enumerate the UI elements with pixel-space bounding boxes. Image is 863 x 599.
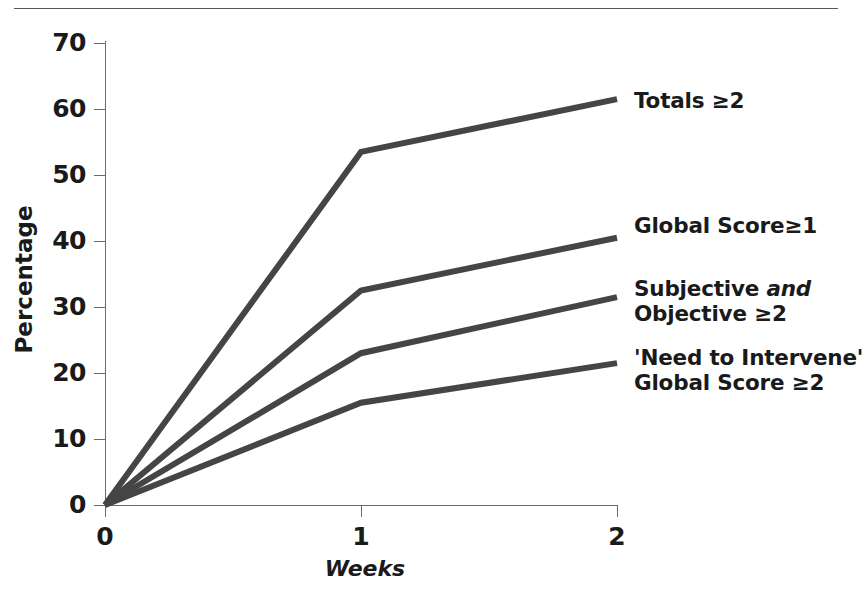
y-tick-label-50: 50 bbox=[40, 162, 86, 187]
series-line-0 bbox=[105, 99, 617, 505]
series-line-1 bbox=[105, 238, 617, 505]
series-label-need-to-intervene-line1: 'Need to Intervene' bbox=[634, 345, 863, 370]
y-axis-line bbox=[105, 41, 106, 507]
top-divider-rule bbox=[14, 8, 838, 9]
subjective-text: Subjective bbox=[634, 276, 766, 301]
x-tick-label-2: 2 bbox=[587, 524, 647, 549]
y-tick-10 bbox=[94, 439, 105, 440]
series-label-subjective-objective: Subjective and Objective ≥2 bbox=[634, 276, 811, 327]
and-italic-text: and bbox=[766, 276, 811, 301]
y-tick-50 bbox=[94, 175, 105, 176]
x-tick-0 bbox=[105, 505, 106, 517]
y-tick-70 bbox=[94, 43, 105, 44]
y-tick-30 bbox=[94, 307, 105, 308]
x-axis-title: Weeks bbox=[255, 558, 475, 580]
y-tick-label-30: 30 bbox=[40, 294, 86, 319]
y-tick-label-0: 0 bbox=[40, 492, 86, 517]
series-label-subjective-objective-line2: Objective ≥2 bbox=[634, 301, 811, 326]
series-line-2 bbox=[105, 297, 617, 505]
y-tick-40 bbox=[94, 241, 105, 242]
y-tick-label-60: 60 bbox=[40, 96, 86, 121]
series-label-global-score-1-line1: Global Score≥1 bbox=[634, 213, 817, 238]
y-tick-label-40: 40 bbox=[40, 228, 86, 253]
series-label-need-to-intervene: 'Need to Intervene' Global Score ≥2 bbox=[634, 345, 863, 396]
y-tick-60 bbox=[94, 109, 105, 110]
x-tick-label-0: 0 bbox=[75, 524, 135, 549]
series-label-totals: Totals ≥2 bbox=[634, 88, 744, 113]
x-tick-2 bbox=[617, 505, 618, 517]
y-tick-20 bbox=[94, 373, 105, 374]
y-tick-label-70: 70 bbox=[40, 30, 86, 55]
y-tick-label-10: 10 bbox=[40, 426, 86, 451]
series-line-3 bbox=[105, 363, 617, 505]
series-label-subjective-objective-line1: Subjective and bbox=[634, 276, 811, 301]
series-label-need-to-intervene-line2: Global Score ≥2 bbox=[634, 370, 863, 395]
series-label-global-score-1: Global Score≥1 bbox=[634, 213, 817, 238]
x-tick-1 bbox=[361, 505, 362, 517]
x-tick-label-1: 1 bbox=[331, 524, 391, 549]
series-label-totals-line1: Totals ≥2 bbox=[634, 88, 744, 113]
y-tick-label-20: 20 bbox=[40, 360, 86, 385]
y-axis-title: Percentage bbox=[13, 170, 36, 390]
